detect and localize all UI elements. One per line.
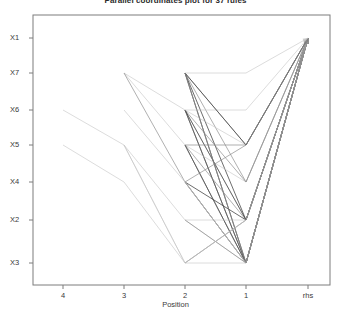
y-tick-label-x1: X1 <box>10 33 19 42</box>
y-tick-label-x7: X7 <box>10 68 19 77</box>
rule-line <box>185 38 308 220</box>
rule-line <box>185 38 308 220</box>
rule-line <box>124 38 309 263</box>
rule-line <box>185 38 308 220</box>
rule-line <box>185 38 309 263</box>
x-tick-label-1: 1 <box>238 291 254 300</box>
x-tick-label-3: 3 <box>116 291 132 300</box>
rule-line <box>185 38 309 263</box>
rule-line <box>185 38 308 263</box>
rule-line <box>63 38 309 263</box>
rule-line <box>124 38 309 263</box>
parallel-coordinates-plot: Parallel coordinates plot for 37 rules X… <box>0 0 351 315</box>
y-tick-label-x6: X6 <box>10 105 19 114</box>
y-tick-label-x2: X2 <box>10 215 19 224</box>
rule-line <box>63 38 308 263</box>
rule-line <box>185 38 309 263</box>
x-tick-label-4: 4 <box>55 291 71 300</box>
x-tick-label-2: 2 <box>177 291 193 300</box>
y-tick-label-x3: X3 <box>10 258 19 267</box>
rule-line <box>185 38 309 263</box>
rule-line <box>185 38 309 263</box>
plot-canvas <box>0 0 351 315</box>
rule-line <box>185 38 308 220</box>
rule-line <box>124 38 309 263</box>
x-tick-label-rhs: rhs <box>300 291 316 300</box>
rule-line <box>185 38 309 263</box>
rule-line <box>185 38 308 220</box>
rule-line <box>124 38 309 263</box>
rule-lines-layer <box>63 38 309 263</box>
rule-line <box>124 38 308 263</box>
y-tick-label-x4: X4 <box>10 177 19 186</box>
rule-line <box>124 38 309 263</box>
axis-ticks <box>29 38 308 289</box>
rule-line <box>185 38 308 220</box>
x-axis-title: Position <box>0 300 351 309</box>
rule-line <box>185 38 309 263</box>
rule-line <box>185 38 309 263</box>
rule-line <box>185 38 308 73</box>
rule-line <box>185 38 309 263</box>
rule-line <box>185 38 309 263</box>
plot-frame <box>33 15 330 285</box>
y-tick-label-x5: X5 <box>10 140 19 149</box>
